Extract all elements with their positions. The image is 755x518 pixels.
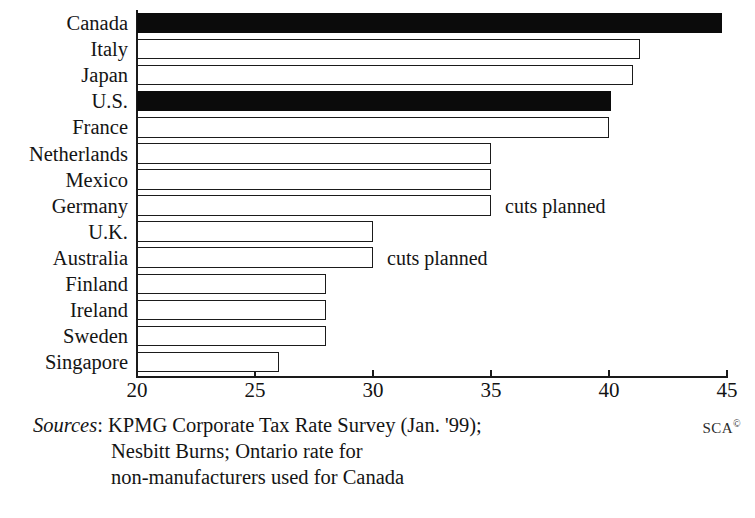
x-tick-label-20: 20 xyxy=(114,379,160,401)
bar-u-k-[interactable] xyxy=(137,221,373,242)
category-label-france: France xyxy=(0,114,128,140)
copyright-icon: © xyxy=(733,418,741,429)
x-tick-label-45: 45 xyxy=(704,379,750,401)
category-label-netherlands: Netherlands xyxy=(0,141,128,167)
bar-u-s-[interactable] xyxy=(137,91,611,112)
sources-text-1: KPMG Corporate Tax Rate Survey (Jan. '99… xyxy=(108,414,482,436)
category-label-sweden: Sweden xyxy=(0,323,128,349)
bar-ireland[interactable] xyxy=(137,300,326,321)
bar-row: Ireland xyxy=(0,297,755,323)
bar-japan[interactable] xyxy=(137,65,633,86)
category-label-australia: Australia xyxy=(0,245,128,271)
category-label-mexico: Mexico xyxy=(0,167,128,193)
category-label-u-k-: U.K. xyxy=(0,219,128,245)
bar-row: Sweden xyxy=(0,323,755,349)
annotation-cuts-planned: cuts planned xyxy=(505,193,606,219)
bar-row: Australiacuts planned xyxy=(0,245,755,271)
credit-mark: SCA© xyxy=(703,418,741,437)
bar-row: Finland xyxy=(0,271,755,297)
bar-row: Mexico xyxy=(0,167,755,193)
category-label-ireland: Ireland xyxy=(0,297,128,323)
bar-row: Singapore xyxy=(0,349,755,375)
category-label-japan: Japan xyxy=(0,62,128,88)
category-label-singapore: Singapore xyxy=(0,349,128,375)
sources-colon: : xyxy=(97,414,103,436)
annotation-cuts-planned: cuts planned xyxy=(387,245,488,271)
x-tick-label-30: 30 xyxy=(350,379,396,401)
category-label-u-s-: U.S. xyxy=(0,88,128,114)
bar-row: Canada xyxy=(0,10,755,36)
x-tick-label-35: 35 xyxy=(468,379,514,401)
plot-area: 202530354045 CanadaItalyJapanU.S.FranceN… xyxy=(0,0,755,400)
x-axis-line xyxy=(136,376,728,378)
sources-line-1: Sources: KPMG Corporate Tax Rate Survey … xyxy=(33,412,653,438)
bar-singapore[interactable] xyxy=(137,352,279,373)
category-label-germany: Germany xyxy=(0,193,128,219)
bar-canada[interactable] xyxy=(137,13,722,34)
bar-germany[interactable] xyxy=(137,195,491,216)
bar-sweden[interactable] xyxy=(137,326,326,347)
sources-block: Sources: KPMG Corporate Tax Rate Survey … xyxy=(33,412,653,490)
x-tick-label-25: 25 xyxy=(232,379,278,401)
bar-row: U.S. xyxy=(0,88,755,114)
sources-line-2: Nesbitt Burns; Ontario rate for xyxy=(33,438,653,464)
credit-text: SCA xyxy=(703,420,733,436)
bar-italy[interactable] xyxy=(137,39,640,60)
footer: Sources: KPMG Corporate Tax Rate Survey … xyxy=(0,404,755,518)
bar-row: Germanycuts planned xyxy=(0,193,755,219)
sources-label: Sources xyxy=(33,414,97,436)
bar-row: U.K. xyxy=(0,219,755,245)
bar-row: Italy xyxy=(0,36,755,62)
sources-line-3: non-manufacturers used for Canada xyxy=(33,464,653,490)
bar-row: Netherlands xyxy=(0,141,755,167)
bar-france[interactable] xyxy=(137,117,609,138)
bar-row: France xyxy=(0,114,755,140)
bar-row: Japan xyxy=(0,62,755,88)
category-label-canada: Canada xyxy=(0,10,128,36)
bar-mexico[interactable] xyxy=(137,169,491,190)
category-label-finland: Finland xyxy=(0,271,128,297)
tax-rate-bar-chart: 202530354045 CanadaItalyJapanU.S.FranceN… xyxy=(0,0,755,518)
bar-netherlands[interactable] xyxy=(137,143,491,164)
bar-rows: CanadaItalyJapanU.S.FranceNetherlandsMex… xyxy=(0,10,755,376)
category-label-italy: Italy xyxy=(0,36,128,62)
x-tick-label-40: 40 xyxy=(586,379,632,401)
bar-australia[interactable] xyxy=(137,247,373,268)
bar-finland[interactable] xyxy=(137,274,326,295)
